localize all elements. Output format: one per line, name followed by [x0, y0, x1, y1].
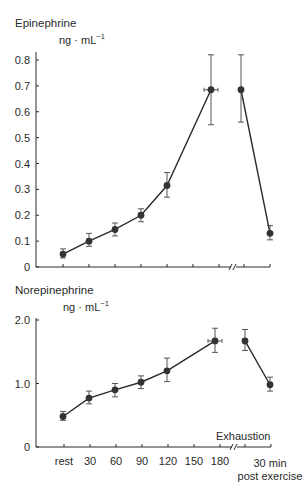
x-tick-label: 30 [84, 455, 96, 467]
data-point-marker [242, 338, 249, 345]
x-tick-label: 150 [185, 455, 203, 467]
norepinephrine-axes: 2.01.00rest306090120150180 [15, 314, 271, 467]
y-tick-label: 2.0 [15, 314, 30, 326]
x-tick-label: 90 [136, 455, 148, 467]
norepinephrine-title: Norepinephrine [15, 284, 94, 296]
y-tick-label: 0.7 [15, 80, 30, 92]
data-point-marker [208, 86, 215, 93]
data-point-marker [164, 367, 171, 374]
epinephrine-line [63, 90, 211, 254]
x-tick-label: 120 [159, 455, 177, 467]
y-tick-label: 0.3 [15, 183, 30, 195]
y-tick-label: 0.5 [15, 132, 30, 144]
epinephrine-series [60, 55, 274, 258]
norepinephrine-series [60, 328, 274, 420]
epinephrine-unit: ng · mL−1 [59, 32, 105, 46]
data-point-marker [138, 379, 145, 386]
norepinephrine-line [63, 341, 215, 417]
axis-break-icon [230, 444, 237, 450]
data-point-marker [138, 212, 145, 219]
y-tick-label: 0.6 [15, 106, 30, 118]
x-label-30min: 30 min [253, 457, 286, 469]
exhaustion-annotation: Exhaustion [216, 430, 270, 442]
data-point-marker [267, 230, 274, 237]
data-point-marker [238, 86, 245, 93]
y-tick-label: 0.8 [15, 54, 30, 66]
y-tick-label: 0.1 [15, 235, 30, 247]
epinephrine-axes: 0.80.70.60.50.40.30.20.10 [15, 52, 270, 273]
chart-canvas: Epinephrine ng · mL−1 0.80.70.60.50.40.3… [0, 0, 305, 485]
y-tick-label: 0 [24, 261, 30, 273]
data-point-marker [60, 251, 67, 258]
axis-break-icon [229, 264, 236, 270]
norepinephrine-unit: ng · mL−1 [63, 299, 109, 313]
x-tick-label: 60 [110, 455, 122, 467]
data-point-marker [267, 381, 274, 388]
y-tick-label: 0 [24, 441, 30, 453]
y-tick-label: 1.0 [15, 378, 30, 390]
data-point-marker [164, 182, 171, 189]
data-point-marker [60, 413, 67, 420]
data-point-marker [86, 395, 93, 402]
x-tick-label: rest [55, 455, 73, 467]
epinephrine-line [241, 90, 270, 234]
data-point-marker [112, 386, 119, 393]
data-point-marker [86, 238, 93, 245]
x-tick-label: 180 [211, 455, 229, 467]
x-label-post-exercise: post exercise [238, 470, 303, 482]
data-point-marker [212, 338, 219, 345]
y-tick-label: 0.4 [15, 158, 30, 170]
epinephrine-title: Epinephrine [15, 17, 76, 29]
y-tick-label: 0.2 [15, 209, 30, 221]
norepinephrine-line [245, 341, 270, 385]
data-point-marker [112, 226, 119, 233]
